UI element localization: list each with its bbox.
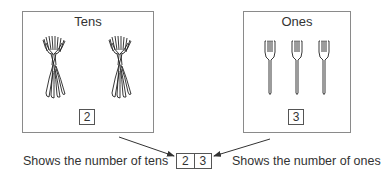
ones-caption: Shows the number of ones xyxy=(232,153,381,169)
result-ones-digit: 3 xyxy=(194,154,212,168)
tens-caption: Shows the number of tens xyxy=(23,153,168,169)
result-number-box: 2 3 xyxy=(176,153,212,169)
result-tens-digit: 2 xyxy=(177,154,194,168)
